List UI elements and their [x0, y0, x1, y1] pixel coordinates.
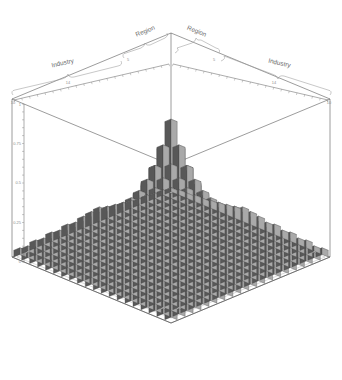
bar-right-face [235, 206, 241, 220]
axis-tick-mark [296, 93, 297, 95]
axis-tick-mark [211, 73, 212, 75]
axis-tick-mark [30, 96, 31, 98]
bar-right-face [243, 207, 249, 224]
z-tick-label-05: 0.5 [15, 180, 21, 185]
axis-tick-mark [234, 78, 235, 80]
axis-tick-mark [45, 93, 46, 95]
tick-region-right: 5 [213, 57, 215, 62]
axis-tick-mark [138, 71, 139, 73]
axis-tick-mark [161, 66, 162, 68]
axis-tick-mark [154, 68, 155, 70]
z-axis: 1 0.75 0.5 0.25 0 [13, 102, 24, 264]
axis-tick-mark [37, 95, 38, 97]
axis-tick-mark [172, 64, 173, 66]
axis-tick-mark [180, 66, 181, 68]
axis-tick-mark [61, 89, 62, 91]
axis-tick-mark [169, 64, 170, 66]
tick-industry-right-outer: 10 [327, 100, 332, 105]
tick-region-left: 5 [127, 57, 129, 62]
axis-tick-mark [188, 68, 189, 70]
axis-label-industry-left: Industry [51, 56, 76, 69]
axis-tick-mark [242, 80, 243, 82]
axis-tick-mark [123, 75, 124, 77]
bar-right-face [258, 216, 264, 230]
tick-industry-left-outer: 10 [11, 100, 16, 105]
axis-label-region-left: Region [134, 23, 156, 38]
axis-tick-mark [227, 77, 228, 79]
axis-tick-mark [53, 91, 54, 93]
bar-left-face [101, 206, 107, 220]
axis-tick-mark [265, 86, 266, 88]
axis-tick-mark [273, 87, 274, 89]
axis-tick-mark [22, 98, 23, 100]
axis-tick-mark [312, 96, 313, 98]
axis-tick-mark [84, 84, 85, 86]
axis-tick-mark [219, 75, 220, 77]
axis-label-industry-right: Industry [267, 57, 292, 70]
three-d-bar-chart: 1 0.75 0.5 0.25 0 Industry 10 14 Region … [0, 0, 342, 380]
z-tick-label-075: 0.75 [13, 141, 22, 146]
axis-tick-mark [203, 71, 204, 73]
chart-canvas: 1 0.75 0.5 0.25 0 Industry 10 14 Region … [0, 0, 342, 380]
z-tick-label-025: 0.25 [13, 220, 22, 225]
axis-tick-mark [304, 95, 305, 97]
axis-tick-mark [146, 69, 147, 71]
axis-tick-mark [68, 87, 69, 89]
axis-tick-mark [320, 98, 321, 100]
axis-tick-mark [258, 84, 259, 86]
left-top-axis: Industry 10 14 Region 5 [11, 23, 170, 105]
axis-tick-mark [115, 77, 116, 79]
axis-tick-mark [289, 91, 290, 93]
right-axis-ticks [172, 64, 328, 102]
tick-industry-left-inner: 14 [66, 80, 71, 85]
axis-tick-mark [99, 80, 100, 82]
axis-tick-mark [107, 78, 108, 80]
z-axis-ticks [22, 104, 24, 262]
axis-tick-mark [281, 89, 282, 91]
axis-tick-mark [130, 73, 131, 75]
bar-left-face [85, 212, 91, 228]
axis-label-region-right: Region [186, 24, 208, 39]
axis-tick-mark [92, 82, 93, 84]
bar-left-face [77, 216, 83, 230]
bar-left-face [93, 207, 99, 224]
axis-tick-mark [76, 86, 77, 88]
left-axis-ticks [14, 64, 170, 102]
right-top-axis: Region 5 Industry 14 10 [172, 24, 332, 105]
tick-industry-right-inner: 14 [272, 80, 277, 85]
bar-field [14, 119, 329, 320]
axis-tick-mark [250, 82, 251, 84]
axis-tick-mark [196, 69, 197, 71]
bar-right-face [251, 212, 257, 228]
